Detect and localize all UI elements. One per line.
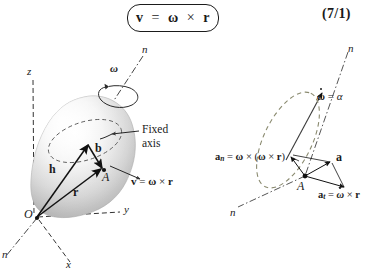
omega-symbol-label: ω xyxy=(110,63,118,74)
left-x-axis xyxy=(39,220,70,262)
alpha-arrow xyxy=(286,93,322,160)
point-O-left xyxy=(35,216,39,220)
velocity-equation-label: v = ω × r xyxy=(131,176,173,187)
vector-h-label: h xyxy=(49,163,56,175)
vector-an xyxy=(291,157,305,176)
left-y-axis-label: y xyxy=(124,204,129,215)
origin-label-left: O xyxy=(24,208,33,220)
left-figure-graphics xyxy=(0,0,379,271)
point-A-label-right: A xyxy=(297,180,304,192)
point-A-label-left: A xyxy=(102,171,109,183)
parallelogram-side-2 xyxy=(332,163,344,187)
right-n-axis-top-label: n xyxy=(348,43,354,54)
vector-b-label: b xyxy=(95,142,102,154)
fixed-axis-label-line1: Fixed xyxy=(142,124,168,136)
right-n-axis-lower xyxy=(238,176,305,207)
figure-canvas: v = ω × r (7/1) xyxy=(0,0,379,271)
point-A-right xyxy=(303,174,308,179)
right-n-axis-bottom-label: n xyxy=(230,207,236,218)
tangential-acceleration-label: at = ω × r xyxy=(318,190,360,201)
total-acceleration-label: a xyxy=(336,151,342,163)
fixed-axis-label-line2: axis xyxy=(142,138,161,150)
left-x-axis-label: x xyxy=(66,259,71,270)
left-z-axis-label: z xyxy=(27,66,31,77)
left-n-axis-bottom-label: n xyxy=(2,249,8,260)
vector-r-label: r xyxy=(73,186,78,198)
left-n-axis-top-label: n xyxy=(142,44,148,55)
normal-acceleration-label: an = ω × (ω × r) xyxy=(215,152,285,163)
right-figure-graphics xyxy=(238,52,348,207)
alpha-equation-label: ω = α xyxy=(317,91,342,102)
vector-at xyxy=(305,176,344,187)
rigid-body-blob xyxy=(31,96,136,218)
